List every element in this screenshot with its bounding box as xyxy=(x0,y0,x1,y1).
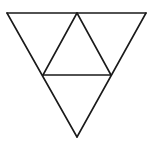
inner-right-edge xyxy=(77,13,111,75)
inner-left-edge xyxy=(43,13,77,75)
triangle-svg xyxy=(0,0,154,145)
subdivided-triangle-diagram xyxy=(0,0,154,145)
